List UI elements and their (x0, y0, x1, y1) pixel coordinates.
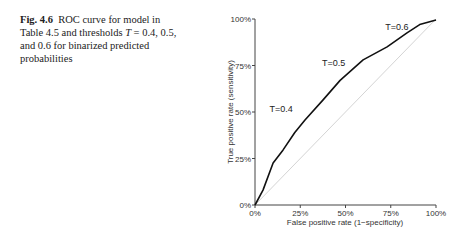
x-axis-title: False positive rate (1−specificity) (287, 218, 404, 227)
y-tick-label: 25% (235, 155, 251, 164)
x-tick-label: 100% (426, 209, 446, 218)
x-tick-label: 50% (337, 209, 353, 218)
threshold-label: T=0.4 (269, 104, 292, 114)
threshold-label: T=0.6 (385, 22, 408, 32)
x-tick-label: 25% (292, 209, 308, 218)
axes: 0%25%50%75%100%0%25%50%75%100% (231, 15, 447, 218)
y-tick-label: 0% (239, 201, 251, 210)
x-tick-label: 75% (383, 209, 399, 218)
threshold-label: T=0.5 (322, 58, 345, 68)
roc-chart: 0%25%50%75%100%0%25%50%75%100% T=0.4T=0.… (0, 0, 466, 234)
y-axis-title: True positive rate (sensitivity) (226, 60, 235, 164)
y-tick-label: 75% (235, 62, 251, 71)
x-tick-label: 0% (249, 209, 261, 218)
y-tick-label: 50% (235, 108, 251, 117)
y-tick-label: 100% (231, 15, 251, 24)
